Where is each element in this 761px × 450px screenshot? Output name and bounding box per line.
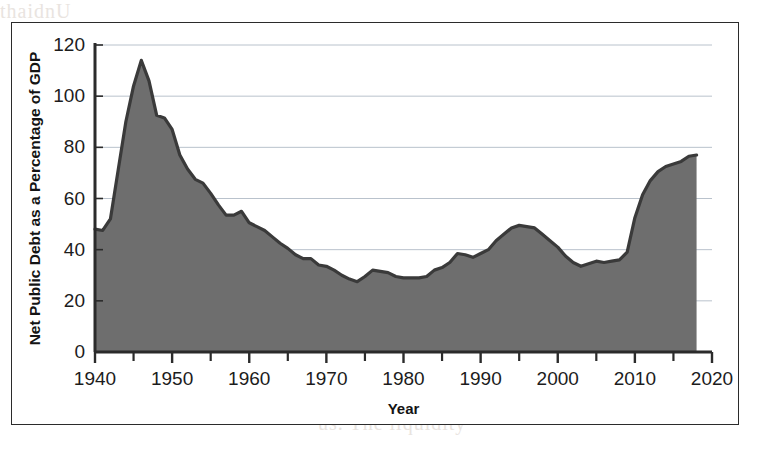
y-tick-labels: 020406080100120 <box>53 34 85 362</box>
x-axis: 194019501960197019801990200020102020 <box>74 352 733 389</box>
y-axis-title: Net Public Debt as a Percentage of GDP <box>26 52 43 346</box>
y-tick-label: 0 <box>74 341 85 362</box>
x-tick-label: 1970 <box>305 368 347 389</box>
x-tick-marks <box>95 352 712 363</box>
x-tick-label: 2020 <box>691 368 733 389</box>
x-axis-title: Year <box>388 400 420 417</box>
y-tick-label: 60 <box>64 188 85 209</box>
x-tick-label: 1960 <box>228 368 270 389</box>
y-tick-label: 80 <box>64 136 85 157</box>
y-axis: 020406080100120 <box>53 34 103 362</box>
x-tick-label: 1940 <box>74 368 116 389</box>
x-tick-label: 1990 <box>459 368 501 389</box>
x-tick-label: 1950 <box>151 368 193 389</box>
y-tick-label: 40 <box>64 239 85 260</box>
x-tick-label: 1980 <box>382 368 424 389</box>
y-tick-label: 120 <box>53 34 85 55</box>
debt-gdp-area-chart: 020406080100120 194019501960197019801990… <box>0 0 761 450</box>
y-tick-label: 20 <box>64 290 85 311</box>
area-fill <box>95 60 697 352</box>
x-tick-label: 2000 <box>537 368 579 389</box>
x-tick-label: 2010 <box>614 368 656 389</box>
x-tick-labels: 194019501960197019801990200020102020 <box>74 368 733 389</box>
area-series-group <box>95 60 697 352</box>
y-tick-label: 100 <box>53 85 85 106</box>
